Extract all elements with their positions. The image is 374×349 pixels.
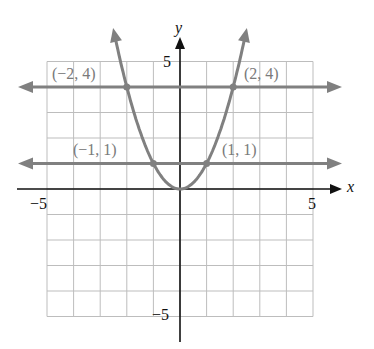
- point-label-2-4: (2, 4): [244, 66, 279, 82]
- tick-label-x-min: −5: [30, 196, 47, 212]
- y-axis-label: y: [175, 20, 182, 36]
- intersection-point: [203, 160, 210, 167]
- arrow-left-icon: [18, 81, 33, 93]
- point-label-neg1-1: (−1, 1): [73, 142, 117, 158]
- arrow-right-icon: [327, 81, 342, 93]
- parabola-arrow-icon: [238, 28, 250, 43]
- intersection-point: [230, 84, 237, 91]
- x-axis-label: x: [347, 179, 354, 195]
- parabola-arrow-icon: [110, 28, 122, 43]
- y-axis-arrow-icon: [175, 37, 185, 49]
- graph-plot: [0, 0, 374, 349]
- intersection-point: [150, 160, 157, 167]
- x-axis-arrow-icon: [330, 184, 342, 194]
- arrow-left-icon: [18, 158, 33, 170]
- intersection-point: [123, 84, 130, 91]
- arrow-right-icon: [327, 158, 342, 170]
- point-label-neg2-4: (−2, 4): [52, 66, 96, 82]
- tick-label-y-min: −5: [152, 307, 169, 323]
- point-label-1-1: (1, 1): [222, 142, 257, 158]
- tick-label-y-max: 5: [163, 54, 171, 70]
- tick-label-x-max: 5: [308, 196, 316, 212]
